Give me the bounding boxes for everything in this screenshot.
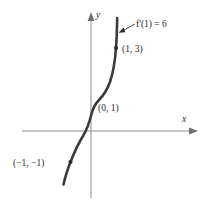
y-axis-label: y <box>95 10 101 20</box>
point-label-0-1: (0, 1) <box>98 103 119 114</box>
point-label-neg1-neg1: (−1, −1) <box>13 158 44 169</box>
derivative-leader-arrowhead <box>119 28 126 33</box>
graph-figure: y x f'(1) = 6 (1, 3) (0, 1) (−1, −1) <box>0 0 208 210</box>
cubic-curve <box>64 18 118 185</box>
y-axis-arrowhead <box>88 12 95 21</box>
x-axis-arrowhead <box>189 128 198 135</box>
point-marker-neg1-neg1 <box>68 160 72 164</box>
derivative-label: f'(1) = 6 <box>136 19 167 30</box>
x-axis-label: x <box>181 114 187 124</box>
derivative-leader-line <box>123 24 135 31</box>
point-marker-1-3 <box>114 46 118 50</box>
point-label-1-3: (1, 3) <box>122 44 143 55</box>
